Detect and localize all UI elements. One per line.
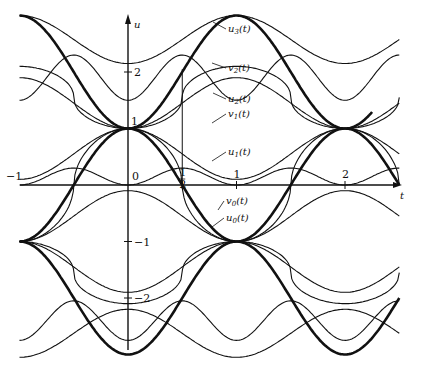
t-axis-label: t: [400, 190, 405, 201]
u-axis-arrow-icon: [125, 14, 131, 24]
thin-curve-v-bottom: [20, 301, 400, 341]
figure: −10121221−1−2 u3(t)v2(t)u2(t)v1(t)u1(t)v…: [0, 0, 421, 366]
y-tick-label: −2: [134, 292, 150, 305]
thin-curve-v-lower: [20, 242, 400, 304]
series-label-u2t: u2(t): [228, 93, 251, 106]
thick-curve-lower: [20, 242, 400, 355]
thick-curve-upper: [20, 16, 373, 129]
x-tick-label: −1: [6, 170, 22, 183]
plot-canvas: −10121221−1−2 u3(t)v2(t)u2(t)v1(t)u1(t)v…: [0, 0, 421, 366]
x-tick-label: 1: [234, 168, 241, 181]
thin-curve-lower-arch: [20, 242, 400, 293]
y-tick-label: 1: [131, 115, 138, 128]
series-label-v2t: v2(t): [228, 62, 250, 75]
series-label-u3t: u3(t): [228, 23, 251, 36]
label-pointer: [212, 63, 226, 68]
label-pointer: [212, 218, 224, 227]
label-pointer: [218, 201, 224, 210]
x-tick-label: 0: [132, 170, 139, 183]
hidden: [20, 4, 129, 18]
thin-curve-u3: [20, 16, 400, 64]
x-tick-label: 2: [179, 178, 186, 191]
label-pointer: [212, 152, 226, 161]
thin-curve-u2: [20, 78, 400, 129]
thin-curve-bottom-arch: [20, 309, 400, 357]
u-axis-label: u: [134, 19, 140, 30]
series-label-u1t: u1(t): [228, 146, 251, 159]
series-label-v1t: v1(t): [228, 108, 250, 121]
label-pointer: [212, 114, 226, 123]
series-label-v0t: v0(t): [226, 195, 248, 208]
series-label-u0t: u0(t): [226, 212, 249, 225]
hidden: [20, 0, 400, 129]
y-tick-label: −1: [134, 236, 150, 249]
series-labels: u3(t)v2(t)u2(t)v1(t)u1(t)v0(t)u0(t): [212, 22, 251, 227]
x-tick-label: 2: [342, 168, 349, 181]
thin-curve-u0: [20, 191, 400, 242]
y-tick-label: 2: [134, 66, 141, 79]
